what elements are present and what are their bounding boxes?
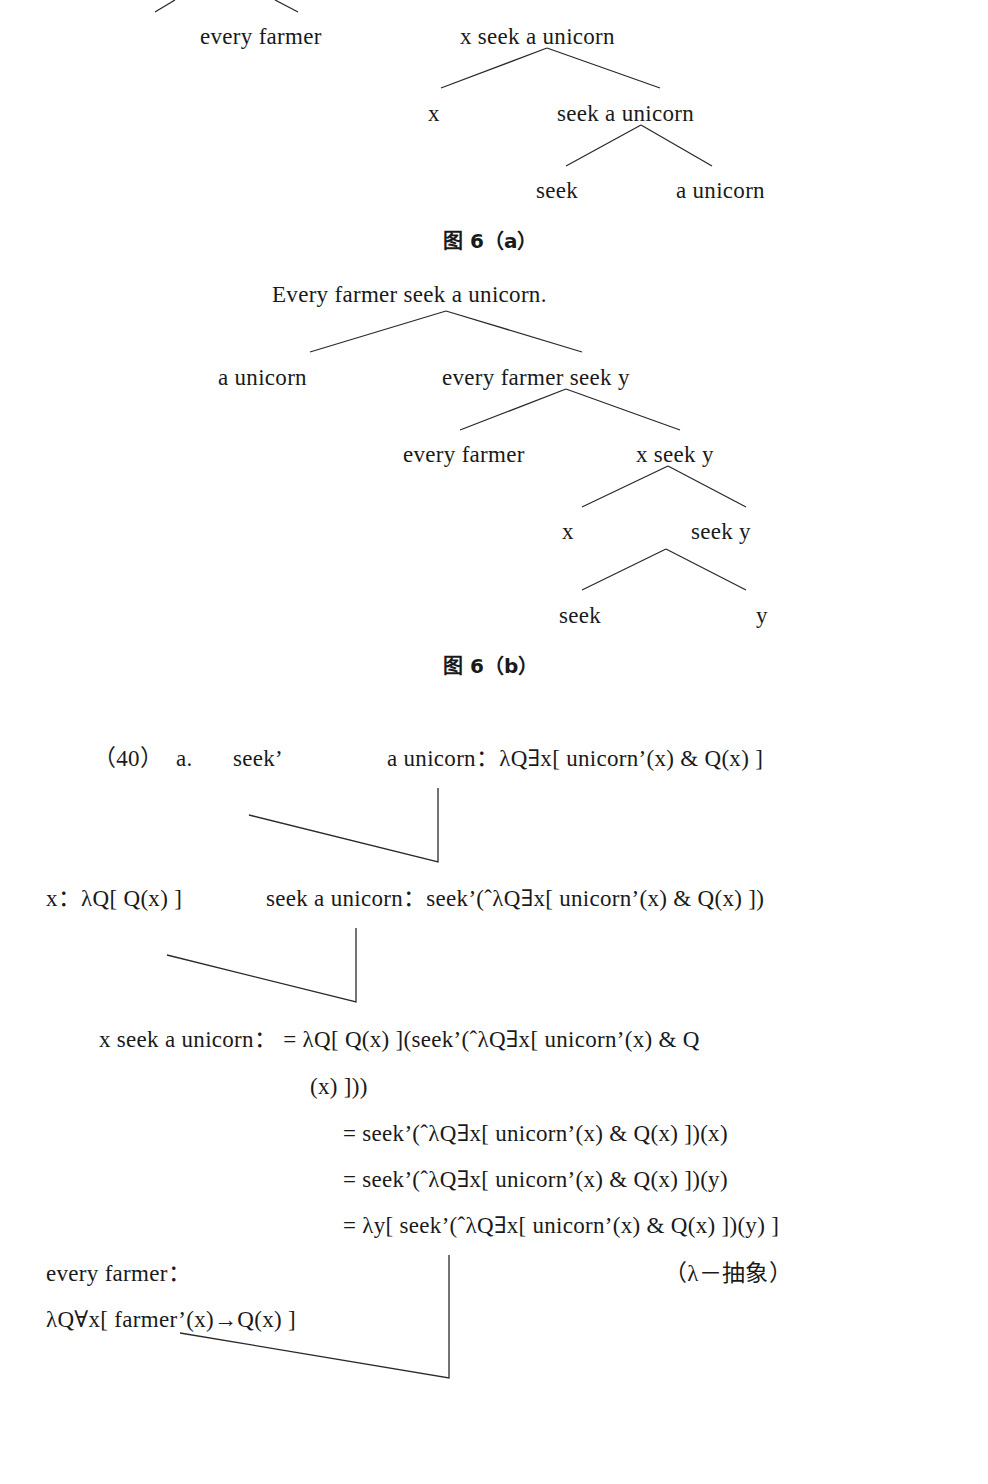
branch-line <box>310 311 446 352</box>
a-unicorn-formula: a unicorn：λQ∃x[ unicorn’(x) & Q(x) ] <box>387 747 763 770</box>
branch-line <box>460 389 566 430</box>
branch-line <box>668 466 746 507</box>
branch-line <box>275 0 298 12</box>
node-x-seek-y: x seek y <box>636 443 714 466</box>
derivation-line-4: = λy[ seek’(ˆλQ∃x[ unicorn’(x) & Q(x) ])… <box>343 1214 779 1237</box>
node-seek-a-unicorn: seek a unicorn <box>557 102 694 125</box>
node-seek: seek <box>536 179 578 202</box>
derivation-line-2: = seek’(ˆλQ∃x[ unicorn’(x) & Q(x) ])(x) <box>343 1122 728 1145</box>
node-every-farmer-seek-y: every farmer seek y <box>442 366 630 389</box>
node-every-farmer: every farmer <box>403 443 525 466</box>
branch-line <box>582 549 666 590</box>
branch-line <box>582 466 668 507</box>
node-seek: seek <box>559 604 601 627</box>
lambda-abstraction-annotation: （λ－抽象） <box>664 1262 792 1285</box>
composition-bracket <box>249 788 438 862</box>
derivation-line-3: = seek’(ˆλQ∃x[ unicorn’(x) & Q(x) ])(y) <box>343 1168 728 1191</box>
figure-caption: 图 6（a） <box>443 231 537 251</box>
every-farmer-label: every farmer： <box>46 1262 191 1285</box>
figure-caption: 图 6（b） <box>443 656 538 676</box>
branch-line <box>566 125 641 166</box>
node-y: y <box>756 604 768 627</box>
derivation-line-1-continued: (x) ])) <box>310 1075 368 1098</box>
node-a-unicorn: a unicorn <box>676 179 765 202</box>
x-formula: x：λQ[ Q(x) ] <box>46 887 182 910</box>
node-every-farmer: every farmer <box>200 25 322 48</box>
every-farmer-formula: λQ∀x[ farmer’(x)→Q(x) ] <box>46 1308 296 1331</box>
node-x-seek-a-unicorn: x seek a unicorn <box>460 25 615 48</box>
branch-line <box>566 389 680 430</box>
branch-line <box>641 125 712 166</box>
node-a-unicorn: a unicorn <box>218 366 307 389</box>
example-label: a. <box>176 747 193 770</box>
node-x: x <box>562 520 574 543</box>
branch-line <box>155 0 175 12</box>
branch-line <box>441 48 547 88</box>
node-root-sentence: Every farmer seek a unicorn. <box>272 283 547 306</box>
branch-line <box>446 311 582 352</box>
node-seek-y: seek y <box>691 520 751 543</box>
seek-prime: seek’ <box>233 747 283 770</box>
branch-line <box>666 549 746 590</box>
seek-a-unicorn-formula: seek a unicorn：seek’(ˆλQ∃x[ unicorn’(x) … <box>266 887 764 910</box>
example-number: （40） <box>93 747 163 770</box>
derivation-line-1: x seek a unicorn： = λQ[ Q(x) ](seek’(ˆλQ… <box>99 1028 700 1051</box>
composition-bracket <box>167 928 356 1002</box>
branch-line <box>547 48 660 88</box>
node-x: x <box>428 102 440 125</box>
